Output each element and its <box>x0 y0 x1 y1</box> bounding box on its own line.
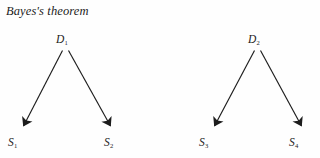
node-label-s4-base: S <box>289 136 295 148</box>
node-label-d1-subscript: 1 <box>65 39 68 46</box>
node-label-d2: D2 <box>248 34 260 46</box>
bayes-tree-diagram <box>0 0 320 158</box>
node-label-s3-base: S <box>199 136 205 148</box>
node-label-d2-base: D <box>248 33 256 45</box>
node-label-s1: S1 <box>8 137 17 149</box>
node-label-d1: D1 <box>56 34 68 46</box>
node-label-s1-subscript: 1 <box>14 142 17 149</box>
node-label-s4-subscript: 4 <box>295 142 298 149</box>
tree-right <box>215 51 302 127</box>
node-label-s3: S3 <box>199 137 208 149</box>
node-label-s2-base: S <box>104 136 110 148</box>
node-label-s2-subscript: 2 <box>110 142 113 149</box>
node-label-s1-base: S <box>8 136 14 148</box>
node-label-s3-subscript: 3 <box>205 142 208 149</box>
edge-d2-to-s4 <box>261 51 302 127</box>
node-label-d1-base: D <box>56 33 64 45</box>
edge-d1-to-s1 <box>24 51 63 127</box>
tree-left <box>24 51 111 127</box>
figure-canvas: Bayes's theorem D1 S1 S2 D2 S3 S4 <box>0 0 320 158</box>
node-label-s2: S2 <box>104 137 113 149</box>
node-label-d2-subscript: 2 <box>257 39 260 46</box>
edge-d2-to-s3 <box>215 51 255 127</box>
edge-d1-to-s2 <box>69 51 111 127</box>
node-label-s4: S4 <box>289 137 298 149</box>
